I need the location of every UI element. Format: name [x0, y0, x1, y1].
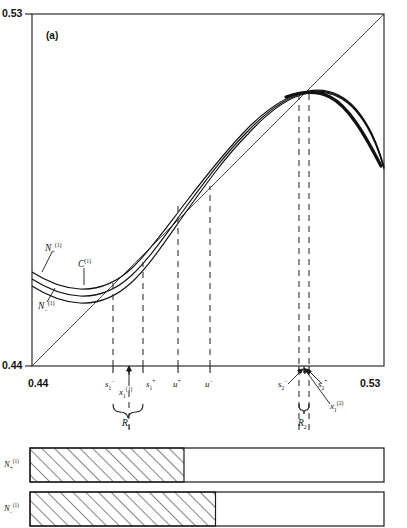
- bar-label-n-plus-sup: (1): [13, 458, 19, 464]
- tick-label-s2-minus: s2−: [278, 378, 287, 391]
- bar-label-n-plus-sub: +: [10, 465, 13, 471]
- curve-label-n-plus-sup: (1): [55, 242, 62, 248]
- bar-label-n-minus-sup: (1): [13, 502, 19, 508]
- curve-label-n-minus-sup: (1): [48, 300, 55, 306]
- x-axis-left-label: 0.44: [28, 377, 48, 389]
- tick-label-s2-plus-sup: +: [324, 378, 327, 384]
- tick-label-s1-minus-sup: −: [111, 378, 114, 384]
- tick-label-u-plus: u+: [173, 378, 181, 389]
- tick-label-s2-minus-sup: −: [284, 378, 287, 384]
- tick-label-x1-1: x1(1): [119, 386, 132, 399]
- y-axis-top-label: 0.53: [2, 7, 22, 19]
- tick-label-x1-1-sub: 1: [123, 393, 126, 399]
- tick-label-s2-minus-sub: 2: [282, 385, 285, 391]
- y-axis-bottom-label: 0.44: [2, 359, 22, 371]
- tick-label-s1-plus-sub: 1: [150, 385, 153, 391]
- bar-diagram-n-minus: [30, 492, 384, 526]
- tick-label-x1-2: x1(2): [330, 400, 343, 413]
- bar-diagram-n-plus: [30, 448, 384, 482]
- tick-label-u-minus-sup: −: [210, 378, 213, 384]
- region-label-r2-sub: 2: [304, 424, 307, 430]
- tick-label-u-minus: u−: [205, 378, 213, 389]
- tick-label-u-plus-sup: +: [178, 378, 181, 384]
- bar-n-plus-hatched-region: [30, 448, 184, 482]
- tick-label-x1-1-sup: (1): [126, 386, 133, 392]
- curve-label-n-plus-sub: +: [51, 249, 54, 255]
- tick-label-s1-plus: s1+: [146, 378, 155, 391]
- figure-panel-a: [0, 0, 407, 528]
- curve-label-c: C(1): [78, 258, 91, 269]
- region-label-r2: R2: [298, 418, 307, 430]
- bar-label-n-plus: N+(1): [4, 458, 19, 471]
- curve-label-n-minus-sub: −: [44, 307, 47, 313]
- bar-label-n-minus-sub: −: [10, 509, 13, 515]
- bar-n-minus-hatched-region: [30, 492, 215, 526]
- bar-label-n-minus: N−(1): [4, 502, 19, 515]
- tick-label-s1-plus-sup: +: [152, 378, 155, 384]
- tick-label-x1-2-sub: 1: [334, 407, 337, 413]
- curve-label-n-plus: N+(1): [45, 242, 62, 255]
- tick-label-s2-plus: s2+: [318, 378, 327, 391]
- curve-label-c-sup: (1): [84, 258, 91, 264]
- panel-label: (a): [46, 30, 58, 41]
- region-label-r1: R1: [122, 418, 131, 430]
- curve-label-n-minus: N−(1): [38, 300, 55, 313]
- tick-label-s1-minus-sub: 1: [109, 385, 112, 391]
- x-axis-right-label: 0.53: [360, 377, 380, 389]
- tick-label-s2-plus-sub: 2: [322, 385, 325, 391]
- tick-label-x1-2-sup: (2): [337, 400, 344, 406]
- tick-label-s1-minus: s1−: [105, 378, 114, 391]
- region-label-r1-sub: 1: [128, 424, 131, 430]
